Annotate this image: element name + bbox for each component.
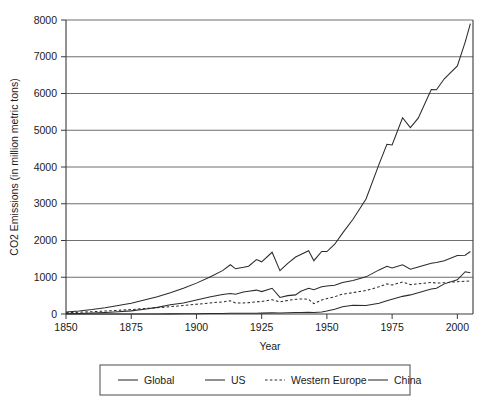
x-tick-label: 2000 [446,321,470,333]
y-axis-title: CO2 Emissions (in million metric tons) [8,78,20,255]
y-tick-label: 0 [51,308,57,320]
legend-label-us: US [231,374,246,386]
y-tick-label: 2000 [34,234,58,246]
y-tick-label: 7000 [34,50,58,62]
legend-label-western-europe: Western Europe [291,374,367,386]
y-tick-labels: 010002000300040005000600070008000 [34,14,58,320]
x-tick-label: 1850 [54,321,78,333]
co2-emissions-line-chart: 010002000300040005000600070008000 185018… [0,0,500,405]
x-tick-label: 1925 [250,321,274,333]
y-tick-label: 4000 [34,161,58,173]
x-tick-label: 1975 [380,321,404,333]
legend-label-china: China [394,374,422,386]
legend-label-global: Global [144,374,174,386]
y-tick-label: 6000 [34,87,58,99]
figure-background [0,0,500,405]
x-axis-title: Year [259,340,281,352]
y-tick-label: 3000 [34,197,58,209]
x-tick-label: 1900 [185,321,209,333]
x-tick-label: 1875 [120,321,144,333]
y-tick-label: 8000 [34,14,58,26]
x-tick-label: 1950 [315,321,339,333]
y-tick-label: 5000 [34,124,58,136]
y-tick-label: 1000 [34,271,58,283]
